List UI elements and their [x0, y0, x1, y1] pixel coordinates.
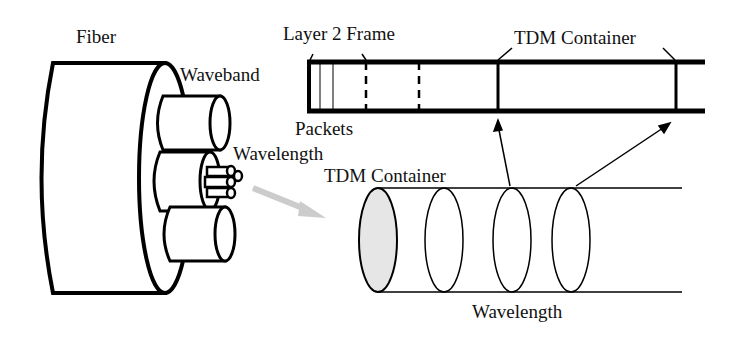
fiber-hierarchy-diagram: Fiber Waveband Wavelength Layer 2 Frame … [0, 0, 735, 340]
tdm-container-label-top: TDM Container [514, 27, 637, 48]
wavelength-pipe [359, 188, 682, 292]
layer2-frame-label: Layer 2 Frame [283, 23, 395, 44]
mapping-arrows [494, 120, 670, 186]
tdm-container-label-mid: TDM Container [324, 165, 447, 186]
wavelength-bundle [205, 166, 242, 198]
packets-label: Packets [295, 118, 353, 139]
gray-arrow-icon [253, 188, 326, 218]
wavelength-label-top: Wavelength [233, 143, 324, 164]
fiber-label: Fiber [76, 26, 117, 47]
wavelength-label-bottom: Wavelength [472, 301, 563, 322]
waveband-label: Waveband [180, 64, 260, 85]
tdm-frame-bar [307, 48, 705, 113]
